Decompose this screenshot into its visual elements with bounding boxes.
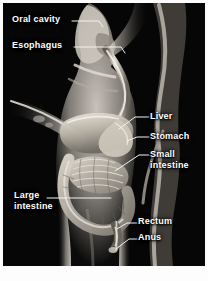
- label-anus: Anus: [138, 232, 161, 243]
- photo-plate: Oral cavity Esophagus Liver Stomach Smal…: [3, 3, 205, 266]
- label-liver: Liver: [150, 111, 173, 122]
- digestive-system-figure: Oral cavity Esophagus Liver Stomach Smal…: [0, 0, 208, 281]
- rectum-organ: [115, 225, 118, 247]
- label-rectum: Rectum: [138, 216, 172, 227]
- label-large-intestine-line2: intestine: [14, 201, 53, 211]
- label-small-intestine: Small intestine: [150, 149, 205, 171]
- label-stomach: Stomach: [150, 131, 189, 142]
- label-large-intestine: Large intestine: [14, 190, 72, 212]
- anus-organ: [109, 247, 118, 253]
- label-large-intestine-line1: Large: [14, 190, 40, 200]
- label-esophagus: Esophagus: [12, 40, 62, 51]
- label-small-intestine-line2: intestine: [150, 160, 189, 170]
- label-small-intestine-line1: Small: [150, 149, 175, 159]
- label-oral-cavity: Oral cavity: [12, 14, 60, 25]
